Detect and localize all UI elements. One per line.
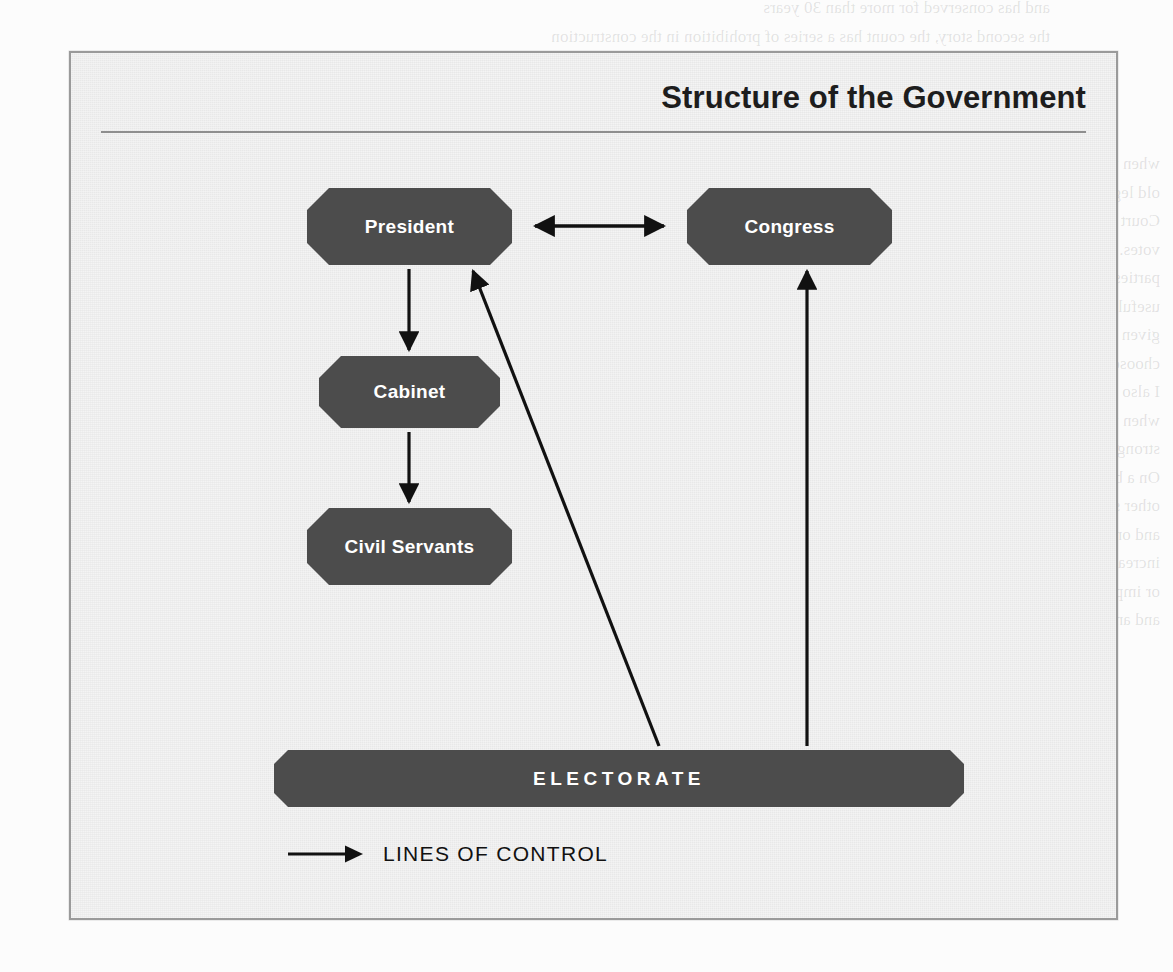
node-electorate[interactable]: ELECTORATE [274, 750, 964, 807]
figure-frame: Structure of the Government [69, 51, 1118, 920]
node-cabinet[interactable]: Cabinet [319, 356, 500, 428]
node-president-label: President [365, 216, 454, 238]
node-electorate-label: ELECTORATE [533, 768, 705, 790]
diagram-canvas: President Congress Cabinet Civil Servant… [71, 53, 1116, 918]
node-civil-servants-label: Civil Servants [345, 536, 475, 558]
legend-label: LINES OF CONTROL [383, 842, 608, 866]
node-congress-label: Congress [744, 216, 834, 238]
title-divider [101, 131, 1086, 133]
node-cabinet-label: Cabinet [374, 381, 446, 403]
scanned-page: and has conserved for more than 30 years… [0, 0, 1173, 972]
legend: LINES OF CONTROL [287, 842, 608, 866]
node-civil-servants[interactable]: Civil Servants [307, 508, 512, 585]
node-president[interactable]: President [307, 188, 512, 265]
figure-title: Structure of the Government [661, 80, 1086, 116]
node-congress[interactable]: Congress [687, 188, 892, 265]
right-arrow-icon [287, 843, 365, 865]
